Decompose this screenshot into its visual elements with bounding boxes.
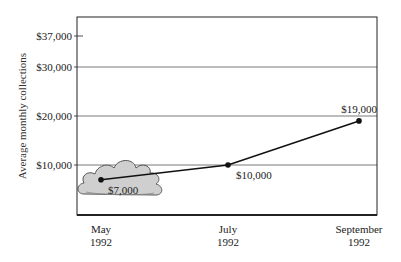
data-label: $10,000 (236, 169, 272, 181)
y-axis: $10,000$20,000$30,000$37,000 (36, 30, 83, 171)
data-point (225, 162, 231, 168)
data-point (98, 177, 104, 183)
x-tick-label: 1992 (217, 236, 239, 248)
x-tick-label: July (219, 223, 238, 235)
line-chart: $10,000$20,000$30,000$37,000 May1992July… (0, 0, 401, 262)
data-point (356, 118, 362, 124)
x-tick-label: September (335, 223, 382, 235)
x-tick-label: May (91, 223, 112, 235)
y-tick-label: $10,000 (36, 159, 72, 171)
x-tick-label: 1992 (348, 236, 370, 248)
y-axis-label: Average monthly collections (16, 53, 28, 179)
data-label: $7,000 (108, 184, 139, 196)
x-axis: May1992July1992September1992 (77, 215, 383, 248)
y-tick-label: $20,000 (36, 110, 72, 122)
gridlines (77, 67, 377, 165)
y-tick-label: $30,000 (36, 61, 72, 73)
data-label: $19,000 (341, 103, 377, 115)
y-tick-label: $37,000 (36, 30, 72, 42)
x-tick-label: 1992 (90, 236, 112, 248)
